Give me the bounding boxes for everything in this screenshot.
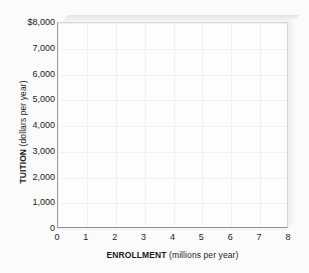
gridline-vertical bbox=[231, 23, 232, 227]
x-axis-tick-label: 6 bbox=[218, 231, 242, 243]
chart-figure: $8,0007,0006,0005,0004,0003,0002,0001,00… bbox=[0, 0, 309, 273]
gridline-horizontal bbox=[58, 152, 287, 153]
x-axis-tick-label: 8 bbox=[276, 231, 300, 243]
gridline-horizontal bbox=[58, 203, 287, 204]
gridline-vertical bbox=[116, 23, 117, 227]
gridline-vertical bbox=[145, 23, 146, 227]
x-axis-title-units: (millions per year) bbox=[169, 250, 238, 260]
gridline-horizontal bbox=[58, 229, 287, 230]
x-axis-tick-label: 3 bbox=[132, 231, 156, 243]
gridline-horizontal bbox=[58, 23, 287, 24]
plot-frame-top-bevel bbox=[62, 15, 299, 22]
gridline-vertical bbox=[87, 23, 88, 227]
gridline-vertical bbox=[289, 23, 290, 227]
gridline-vertical bbox=[202, 23, 203, 227]
y-axis-title-units: (dollars per year) bbox=[18, 80, 28, 146]
gridline-horizontal bbox=[58, 178, 287, 179]
gridline-horizontal bbox=[58, 126, 287, 127]
x-axis-tick-label: 7 bbox=[247, 231, 271, 243]
y-axis-tick-label: $8,000 bbox=[0, 17, 55, 27]
gridline-horizontal bbox=[58, 49, 287, 50]
x-axis-tick-label: 2 bbox=[103, 231, 127, 243]
plot-area bbox=[57, 22, 288, 228]
x-axis-tick-label: 5 bbox=[189, 231, 213, 243]
x-axis-tick-label: 0 bbox=[45, 231, 69, 243]
x-axis-tick-labels: 012345678 bbox=[0, 231, 309, 245]
x-axis-title: ENROLLMENT (millions per year) bbox=[57, 250, 288, 260]
gridline-horizontal bbox=[58, 100, 287, 101]
y-axis-title-bold: TUITION bbox=[18, 149, 28, 184]
x-axis-tick-label: 4 bbox=[161, 231, 185, 243]
gridline-vertical bbox=[260, 23, 261, 227]
y-axis-title: TUITION (dollars per year) bbox=[18, 47, 32, 217]
x-axis-tick-label: 1 bbox=[74, 231, 98, 243]
gridline-vertical bbox=[58, 23, 59, 227]
x-axis-title-bold: ENROLLMENT bbox=[107, 250, 167, 260]
gridline-vertical bbox=[174, 23, 175, 227]
gridline-horizontal bbox=[58, 75, 287, 76]
gridlines bbox=[58, 23, 287, 227]
